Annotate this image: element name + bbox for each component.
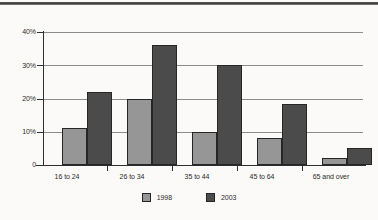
legend-swatch-1998-icon xyxy=(142,193,151,202)
x-axis-label-65-and-over: 65 and over xyxy=(296,173,366,180)
bar-group-16-to-24 xyxy=(62,32,114,165)
y-axis-tick-label-0: 0 xyxy=(2,161,36,169)
x-axis-tick-mark-4 xyxy=(302,165,303,171)
bar-1998-35-to-44[interactable] xyxy=(192,132,217,165)
bar-1998-26-to-34[interactable] xyxy=(127,99,152,166)
chart-legend: 1998 2003 xyxy=(0,193,378,202)
x-axis-label-26-to-34: 26 to 34 xyxy=(101,173,163,180)
bar-2003-65-and-over[interactable] xyxy=(347,148,372,165)
y-axis-tick-label-20: 20% xyxy=(2,95,36,103)
bar-2003-16-to-24[interactable] xyxy=(87,92,112,165)
bar-2003-45-to-64[interactable] xyxy=(282,104,307,166)
bar-1998-45-to-64[interactable] xyxy=(257,138,282,165)
y-axis-tick-label-30: 30% xyxy=(2,62,36,70)
legend-swatch-2003-icon xyxy=(206,193,215,202)
bar-2003-35-to-44[interactable] xyxy=(217,65,242,165)
bar-group-26-to-34 xyxy=(127,32,179,165)
x-axis-label-16-to-24: 16 to 24 xyxy=(36,173,98,180)
bar-group-35-to-44 xyxy=(192,32,244,165)
x-axis-label-45-to-64: 45 to 64 xyxy=(231,173,293,180)
bar-group-45-to-64 xyxy=(257,32,309,165)
y-axis-tick-label-40: 40% xyxy=(2,28,36,36)
legend-label-1998: 1998 xyxy=(157,194,172,201)
bar-2003-26-to-34[interactable] xyxy=(152,45,177,165)
x-axis-line xyxy=(36,165,366,167)
legend-item-1998[interactable]: 1998 xyxy=(142,193,172,202)
x-axis-tick-mark-2 xyxy=(172,165,173,171)
x-axis-tick-mark-1 xyxy=(107,165,108,171)
bar-chart: 40% 30% 20% 10% 0 xyxy=(0,0,378,220)
bar-1998-16-to-24[interactable] xyxy=(62,128,87,165)
legend-item-2003[interactable]: 2003 xyxy=(206,193,236,202)
legend-label-2003: 2003 xyxy=(221,194,236,201)
x-axis-label-35-to-44: 35 to 44 xyxy=(166,173,228,180)
plot-area xyxy=(44,32,363,165)
x-axis-tick-mark-3 xyxy=(237,165,238,171)
y-axis-tick-label-10: 10% xyxy=(2,128,36,136)
bar-group-65-and-over xyxy=(322,32,374,165)
